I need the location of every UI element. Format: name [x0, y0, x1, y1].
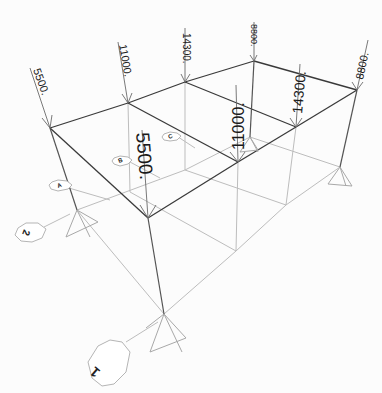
load-label-D1: 8800.: [249, 24, 259, 47]
grid-bubble-C: C: [162, 132, 181, 141]
load-label-B2: 11000.: [230, 102, 247, 150]
load-label-A2: 5500.: [132, 132, 157, 181]
grid-bubble-2: 2: [15, 223, 46, 242]
grid-bubble-1: 1: [87, 340, 130, 386]
load-label-D2: 8800.: [353, 51, 370, 80]
load-label-B1: 11000.: [117, 43, 135, 77]
base-grid: [44, 82, 340, 342]
frame-svg: 5500. 11000. 14300. 8800. 5500. 11000. 1…: [0, 0, 382, 393]
grid-bubble-A: A: [49, 180, 72, 191]
load-arrows: [30, 22, 368, 218]
structural-frame-view: 5500. 11000. 14300. 8800. 5500. 11000. 1…: [0, 0, 382, 393]
load-label-C1: 14300.: [181, 33, 192, 64]
load-label-C2: 14300.: [289, 70, 309, 114]
supports: [66, 137, 352, 352]
roof-beams: [50, 61, 357, 218]
